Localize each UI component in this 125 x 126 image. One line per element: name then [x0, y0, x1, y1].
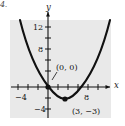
origin-leader-line — [52, 72, 57, 80]
x-tick-label-8: 8 — [84, 93, 89, 102]
vertex-point-marker — [62, 96, 67, 101]
x-axis-arrow — [106, 85, 111, 89]
y-tick-label-neg4: −4 — [34, 105, 46, 114]
y-axis-arrow — [46, 12, 50, 17]
x-tick-label-neg4: −4 — [15, 93, 27, 102]
x-axis-label: x — [114, 81, 119, 90]
origin-point-marker — [45, 84, 50, 89]
origin-point-label: (0, 0) — [56, 63, 78, 72]
y-axis-label: y — [46, 3, 51, 12]
figure-container: 4. — [0, 0, 125, 126]
y-tick-label-8: 8 — [38, 45, 43, 54]
vertex-point-label: (3, −3) — [72, 107, 100, 116]
y-tick-label-12: 12 — [33, 23, 43, 32]
